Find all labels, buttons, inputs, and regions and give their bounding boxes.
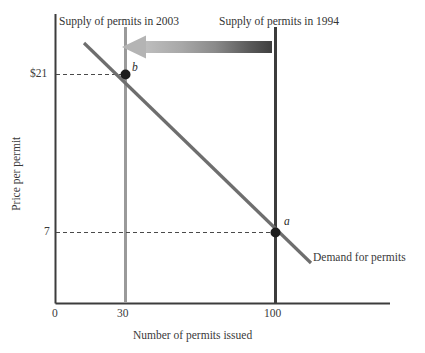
y-tick-label-7: 7 bbox=[44, 226, 50, 238]
x-axis-title: Number of permits issued bbox=[133, 330, 252, 342]
supply-2003-label: Supply of permits in 2003 bbox=[59, 16, 179, 28]
supply-shift-arrow bbox=[122, 36, 272, 59]
x-tick-label-30: 30 bbox=[117, 308, 129, 320]
point-a-label: a bbox=[284, 216, 290, 228]
demand-curve-label: Demand for permits bbox=[313, 252, 406, 264]
permits-supply-demand-chart: Supply of permits in 2003 Supply of perm… bbox=[0, 0, 425, 353]
supply-1994-label: Supply of permits in 1994 bbox=[219, 16, 339, 28]
point-b-marker bbox=[121, 70, 131, 80]
point-a-marker bbox=[271, 228, 281, 238]
chart-canvas bbox=[0, 0, 425, 353]
x-tick-label-0: 0 bbox=[52, 308, 58, 320]
x-tick-label-100: 100 bbox=[264, 308, 281, 320]
y-axis-title: Price per permit bbox=[11, 124, 23, 224]
y-tick-label-21: $21 bbox=[30, 68, 47, 80]
point-b-label: b bbox=[132, 62, 138, 74]
